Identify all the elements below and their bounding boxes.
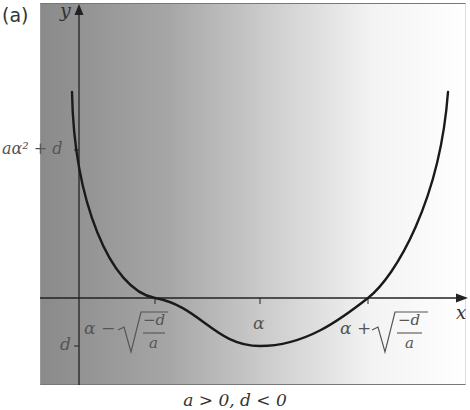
x-tick-label-alpha: α bbox=[253, 313, 264, 333]
x-tick-label-left-prefix: α − bbox=[84, 318, 115, 338]
y-tick-label-top: aα² + d bbox=[2, 139, 63, 158]
y-axis-arrow-icon bbox=[75, 4, 84, 15]
x-axis-label: x bbox=[456, 302, 466, 323]
curve bbox=[72, 92, 448, 346]
x-tick-label-right-num: −d bbox=[398, 311, 420, 329]
y-axis-label: y bbox=[60, 0, 71, 21]
x-tick-label-right-prefix: α + bbox=[340, 318, 371, 338]
x-tick-label-left-num: −d bbox=[143, 311, 165, 329]
x-tick-label-left-den: a bbox=[149, 334, 158, 352]
y-tick-label-bottom: d bbox=[60, 334, 71, 354]
x-tick-label-right-den: a bbox=[405, 334, 414, 352]
chart-caption: a > 0, d < 0 bbox=[0, 390, 470, 410]
